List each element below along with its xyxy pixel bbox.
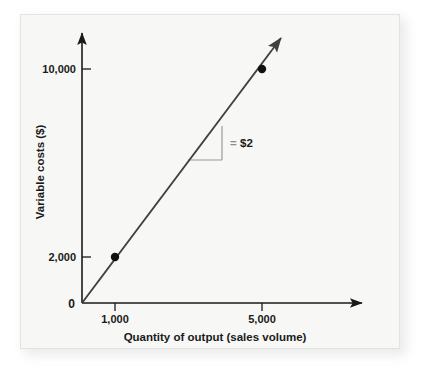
slope-value-label: $2 xyxy=(240,137,253,149)
variable-cost-chart: 10,000 2,000 0 1,000 5,000 Quantity of o… xyxy=(0,0,424,373)
variable-cost-line-arrow xyxy=(272,38,281,50)
data-point-1000-2000 xyxy=(111,253,119,261)
x-tick-label-1000: 1,000 xyxy=(101,313,129,325)
x-tick-label-5000: 5,000 xyxy=(248,313,276,325)
y-tick-label-2000: 2,000 xyxy=(48,251,76,263)
y-tick-label-10000: 10,000 xyxy=(42,63,76,75)
x-axis-title: Quantity of output (sales volume) xyxy=(124,331,307,343)
slope-equals-sign: = xyxy=(230,137,237,149)
data-point-5000-10000 xyxy=(258,65,266,73)
y-axis-title: Variable costs ($) xyxy=(34,125,46,220)
origin-label: 0 xyxy=(68,297,75,311)
variable-cost-line xyxy=(82,50,272,303)
figure-root: 10,000 2,000 0 1,000 5,000 Quantity of o… xyxy=(0,0,424,373)
